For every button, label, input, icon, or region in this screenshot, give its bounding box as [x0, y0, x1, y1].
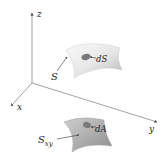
y-axis-label: y: [148, 124, 155, 134]
y-axis: [32, 83, 157, 122]
sxy-label: Sxy: [38, 134, 54, 148]
z-axis-label: z: [36, 9, 42, 19]
surface-s-shape: [66, 44, 122, 78]
sxy-label-sub: xy: [45, 140, 54, 148]
surface-integral-diagram: z x y dS S dA Sxy: [0, 0, 165, 158]
s-label: S: [51, 71, 58, 82]
lower-surface: dA Sxy: [38, 118, 112, 152]
s-pointer: [57, 57, 67, 71]
ds-label: dS: [96, 54, 107, 64]
upper-surface: dS S: [51, 44, 122, 82]
x-axis-label: x: [17, 102, 22, 112]
da-label: dA: [95, 124, 107, 134]
